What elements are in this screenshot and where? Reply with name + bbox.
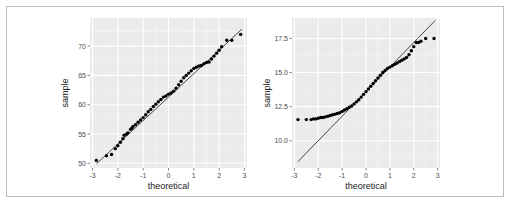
- data-point: [119, 141, 122, 144]
- y-tick-label: 10.0: [274, 137, 288, 144]
- data-point: [305, 118, 308, 121]
- data-point: [376, 76, 379, 79]
- y-axis-label: sample: [262, 78, 272, 107]
- y-tick-label: 55: [78, 131, 86, 138]
- data-point: [182, 76, 185, 79]
- x-axis-label: theoretical: [345, 181, 387, 191]
- data-point: [116, 144, 119, 147]
- data-point: [174, 87, 177, 90]
- y-tick-label: 70: [78, 43, 86, 50]
- data-point: [362, 93, 365, 96]
- x-axis-label: theoretical: [148, 181, 190, 191]
- data-point: [230, 39, 233, 42]
- data-point: [136, 121, 139, 124]
- data-point: [419, 39, 422, 42]
- data-point: [152, 105, 155, 108]
- data-point: [374, 79, 377, 82]
- data-point: [105, 154, 108, 157]
- data-point: [239, 33, 242, 36]
- data-point: [215, 51, 218, 54]
- x-tick-label: 3: [436, 172, 440, 179]
- x-tick-label: -2: [115, 172, 121, 179]
- data-point: [207, 60, 210, 63]
- data-point: [110, 153, 113, 156]
- data-point: [220, 45, 223, 48]
- data-point: [139, 118, 142, 121]
- data-point: [141, 116, 144, 119]
- data-point: [357, 98, 360, 101]
- data-point: [407, 53, 410, 56]
- data-point: [177, 83, 180, 86]
- data-point: [149, 108, 152, 111]
- data-point: [217, 49, 220, 52]
- data-point: [412, 45, 415, 48]
- x-tick-label: 1: [192, 172, 196, 179]
- data-point: [225, 39, 228, 42]
- qq-plots: -3-2-101235055606570theoreticalsample -3…: [0, 0, 509, 204]
- data-point: [210, 57, 213, 60]
- data-point: [179, 80, 182, 83]
- data-point: [95, 159, 98, 162]
- data-point: [371, 82, 374, 85]
- data-point: [432, 37, 435, 40]
- data-point: [172, 90, 175, 93]
- data-point: [147, 110, 150, 113]
- x-tick-label: -3: [291, 172, 297, 179]
- y-tick-label: 60: [78, 101, 86, 108]
- data-point: [121, 137, 124, 140]
- y-tick-label: 12.5: [274, 103, 288, 110]
- data-point: [369, 84, 372, 87]
- data-point: [379, 74, 382, 77]
- x-tick-label: -2: [315, 172, 321, 179]
- x-tick-label: 2: [412, 172, 416, 179]
- y-tick-label: 17.5: [274, 35, 288, 42]
- x-tick-label: 0: [364, 172, 368, 179]
- y-tick-label: 50: [78, 160, 86, 167]
- y-tick-label: 65: [78, 72, 86, 79]
- x-tick-label: 3: [243, 172, 247, 179]
- data-point: [144, 113, 147, 116]
- x-tick-label: -1: [339, 172, 345, 179]
- data-point: [296, 118, 299, 121]
- data-point: [190, 69, 193, 72]
- data-point: [157, 100, 160, 103]
- data-point: [212, 54, 215, 57]
- x-tick-label: -1: [140, 172, 146, 179]
- qq-plot-right: -3-2-1012310.012.515.017.5theoreticalsam…: [262, 18, 440, 191]
- data-point: [405, 56, 408, 59]
- data-point: [410, 49, 413, 52]
- data-point: [360, 95, 363, 98]
- data-point: [187, 71, 190, 74]
- data-point: [134, 123, 137, 126]
- x-tick-label: 0: [167, 172, 171, 179]
- y-tick-label: 15.0: [274, 69, 288, 76]
- data-point: [126, 131, 129, 134]
- data-point: [424, 37, 427, 40]
- data-point: [364, 90, 367, 93]
- qq-plot-left: -3-2-101235055606570theoreticalsample: [60, 18, 247, 191]
- data-point: [154, 102, 157, 105]
- data-point: [159, 98, 162, 101]
- x-tick-label: 1: [388, 172, 392, 179]
- data-point: [114, 147, 117, 150]
- x-tick-label: -3: [89, 172, 95, 179]
- y-axis-label: sample: [60, 78, 70, 107]
- data-point: [367, 87, 370, 90]
- data-point: [185, 74, 188, 77]
- x-tick-label: 2: [217, 172, 221, 179]
